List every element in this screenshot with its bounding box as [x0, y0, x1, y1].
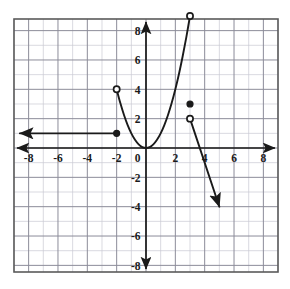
endpoint-open-point-3-2 [187, 116, 193, 122]
x-tick-label: 2 [172, 152, 178, 164]
y-tick-label: 4 [135, 84, 141, 96]
y-tick-label: -8 [131, 260, 141, 272]
y-tick-label: 6 [135, 54, 141, 66]
x-tick-label: -8 [24, 152, 34, 164]
y-tick-label: -6 [131, 230, 141, 242]
x-tick-label: -6 [53, 152, 63, 164]
y-tick-label: 2 [135, 113, 141, 125]
endpoint-closed-point-neg2-1 [114, 130, 120, 136]
x-tick-label: -4 [83, 152, 93, 164]
y-tick-label: -4 [131, 201, 141, 213]
x-tick-label: -2 [112, 152, 122, 164]
x-tick-label: 6 [231, 152, 237, 164]
endpoint-open-point-3-9 [187, 13, 193, 19]
y-tick-label: -2 [131, 172, 141, 184]
endpoint-closed-point-3-3 [187, 101, 193, 107]
origin-label: 0 [135, 152, 141, 164]
x-tick-label: 8 [260, 152, 266, 164]
graph-figure: -8-6-4-224688642-2-4-6-80 [0, 0, 290, 289]
coordinate-plane-svg: -8-6-4-224688642-2-4-6-80 [0, 0, 290, 289]
endpoint-open-point-neg2-4 [114, 86, 120, 92]
y-tick-label: 8 [135, 25, 141, 37]
